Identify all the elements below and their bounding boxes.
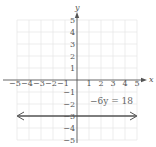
x-tick: −1 [57,79,69,88]
x-axis-label: x [149,75,154,84]
y-axis-label: y [74,3,80,12]
x-tick: −5 [9,79,21,88]
x-tick: 3 [110,79,115,88]
y-tick: −2 [63,100,75,109]
y-axis-arrow-icon [75,12,79,18]
x-tick: 2 [98,79,103,88]
x-tick: −2 [45,79,57,88]
y-tick: −4 [63,124,75,133]
equation-label: −6y = 18 [90,96,133,106]
x-tick: 4 [122,79,127,88]
y-tick: 5 [70,16,75,25]
x-tick: 5 [134,79,139,88]
y-tick: −1 [63,88,75,97]
x-axis-arrow-icon [141,78,147,82]
x-tick: 1 [86,79,91,88]
y-tick: 4 [70,28,75,37]
y-tick: −5 [63,136,75,145]
x-tick: −3 [33,79,45,88]
y-tick: 3 [70,40,75,49]
x-tick: −4 [21,79,33,88]
y-tick: 2 [70,52,75,61]
y-tick: 1 [70,64,75,73]
coordinate-plane: x y −5 −4 −3 −2 −1 1 2 3 4 5 5 4 3 2 1 −… [0,0,156,147]
